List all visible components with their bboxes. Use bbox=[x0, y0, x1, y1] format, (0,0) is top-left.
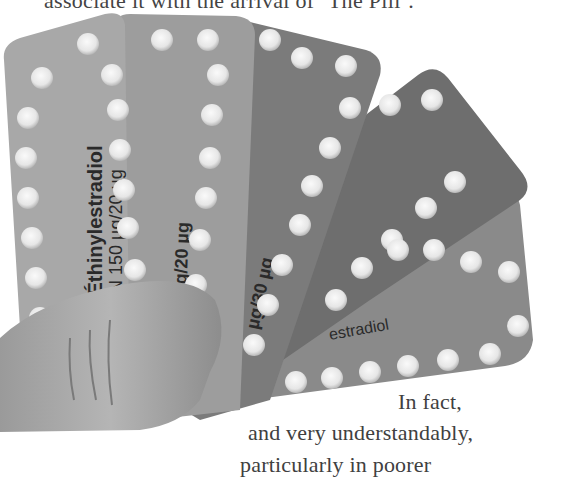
body-text-wrap-line-1: In fact, bbox=[398, 389, 462, 415]
body-text-wrap-line-3: particularly in poorer bbox=[240, 452, 431, 478]
body-text-wrap-line-2: and very understandably, bbox=[248, 420, 473, 446]
pill-packs-photo: sogestrel/Éthinylestradiol ARAN 150 µg/2… bbox=[0, 0, 563, 490]
